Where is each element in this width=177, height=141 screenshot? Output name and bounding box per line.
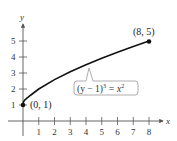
svg-text:4: 4 (11, 52, 16, 62)
svg-text:1: 1 (37, 127, 42, 137)
svg-text:4: 4 (84, 127, 89, 137)
svg-text:3: 3 (11, 68, 16, 78)
svg-text:2: 2 (52, 127, 57, 137)
svg-text:8: 8 (147, 127, 152, 137)
end-point (147, 39, 152, 44)
equation-mid: = x (106, 84, 122, 94)
equation-lhs: (y − 1) (77, 84, 103, 95)
svg-text:7: 7 (131, 127, 136, 137)
y-axis-label: y (19, 12, 24, 22)
end-point-label: (8, 5) (133, 26, 155, 38)
svg-text:3: 3 (68, 127, 73, 137)
x-tick-labels: 1 2 3 4 5 6 7 8 (37, 127, 152, 137)
equation-exponent-2: 2 (121, 83, 124, 89)
svg-text:2: 2 (11, 84, 16, 94)
chart: x y 1 2 3 4 5 6 7 8 1 2 3 4 5 (0, 0, 177, 141)
svg-text:6: 6 (115, 127, 120, 137)
svg-text:(y − 1)3 = x2: (y − 1)3 = x2 (77, 83, 124, 95)
y-tick-labels: 1 2 3 4 5 (11, 36, 16, 110)
x-axis-label: x (165, 116, 170, 126)
start-point (21, 103, 26, 108)
svg-text:5: 5 (11, 36, 16, 46)
equation-callout: (y − 1)3 = x2 (74, 68, 138, 95)
svg-text:5: 5 (100, 127, 105, 137)
start-point-label: (0, 1) (30, 99, 52, 111)
svg-text:1: 1 (11, 100, 16, 110)
